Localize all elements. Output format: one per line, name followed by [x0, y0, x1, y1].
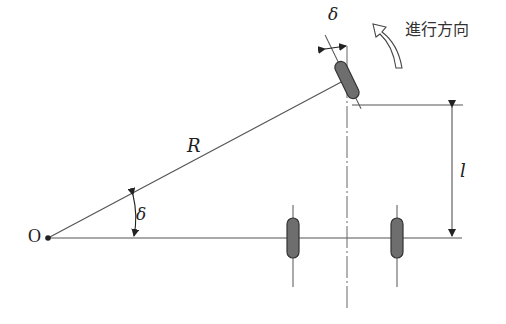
- travel-direction-label: 進行方向: [405, 16, 469, 40]
- wheelbase-label: l: [460, 160, 466, 181]
- rear-right-wheel: [391, 218, 403, 258]
- radius-label: R: [187, 135, 201, 156]
- front-wheel: [333, 59, 361, 100]
- angle-label-origin: δ: [136, 204, 146, 224]
- steering-diagram: [0, 0, 506, 324]
- origin-point: [45, 235, 51, 241]
- angle-label-wheel: δ: [328, 4, 338, 24]
- rear-left-wheel: [287, 218, 299, 258]
- travel-direction-arrow: [373, 24, 402, 68]
- angle-arrow-wheel: [325, 46, 346, 49]
- radius-line: [48, 80, 345, 238]
- origin-label: O: [28, 226, 41, 247]
